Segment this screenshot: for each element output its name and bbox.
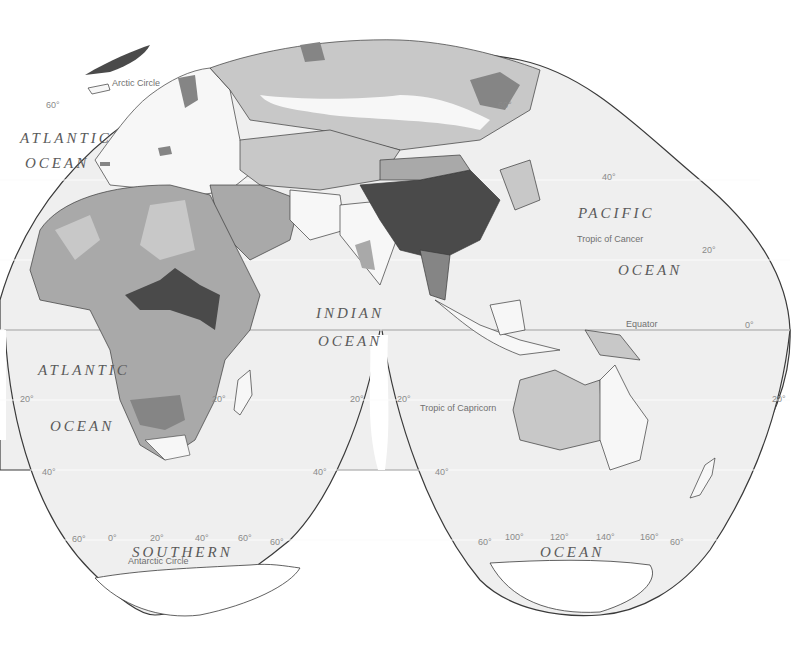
world-map: ATLANTIC OCEAN ATLANTIC OCEAN INDIAN OCE… [0,0,794,656]
lat-label: 60° [670,537,684,547]
lat-label: 20° [397,394,411,404]
lon-label: 120° [550,532,569,542]
antarctic-circle-label: Antarctic Circle [128,556,189,566]
ocean-label-atlantic-south-2: OCEAN [50,418,114,435]
iberia-spot [100,162,110,166]
lat-label: 40° [42,467,56,477]
ocean-label-southern-2: OCEAN [540,544,604,561]
greenland-fragment [85,45,150,75]
ocean-label-pacific-1: PACIFIC [578,205,655,222]
lat-label: 20° [772,394,786,404]
iceland [88,84,110,94]
map-graphic [0,0,794,656]
lon-label: 100° [505,532,524,542]
ocean-label-atlantic-north-1: ATLANTIC [20,130,112,147]
lon-label: 160° [640,532,659,542]
lat-label: 60° [478,537,492,547]
ocean-label-atlantic-north-2: OCEAN [25,155,89,172]
tropic-of-capricorn-label: Tropic of Capricorn [420,403,496,413]
lat-label: 60° [270,537,284,547]
lon-label: 20° [150,533,164,543]
lon-label: 40° [195,533,209,543]
lat-label: 40° [602,172,616,182]
lat-label: 20° [702,245,716,255]
lat-label: 60° [72,534,86,544]
lon-label: 140° [596,532,615,542]
ocean-label-indian-1: INDIAN [316,305,384,322]
lat-label: 40° [435,467,449,477]
arctic-circle-label: Arctic Circle [112,78,160,88]
lon-label: 0° [108,533,117,543]
lat-label: 20° [350,394,364,404]
lat-label: 20° [20,394,34,404]
equator-label: Equator [626,319,658,329]
lat-label: 60° [498,100,512,110]
lat-label: 60° [46,100,60,110]
lat-label: 20° [212,394,226,404]
ocean-label-atlantic-south-1: ATLANTIC [38,362,130,379]
lat-label: 0° [745,320,754,330]
tropic-of-cancer-label: Tropic of Cancer [577,234,643,244]
ocean-label-pacific-2: OCEAN [618,262,682,279]
ocean-label-indian-2: OCEAN [318,333,382,350]
lat-label: 40° [313,467,327,477]
lon-label: 60° [238,533,252,543]
